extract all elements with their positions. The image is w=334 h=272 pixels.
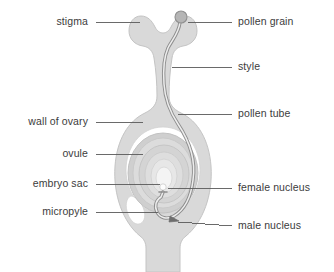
label-male-nucleus-text: male nucleus: [238, 219, 301, 231]
label-pollen-grain: pollen grain: [238, 15, 294, 27]
label-wall-of-ovary: wall of ovary: [28, 115, 88, 127]
label-ovule: ovule: [62, 147, 88, 159]
label-pollen-tube-text: pollen tube: [238, 107, 290, 119]
pollen-grain: [175, 11, 187, 23]
label-wall-of-ovary-text: wall of ovary: [28, 115, 88, 127]
label-embryo-sac-text: embryo sac: [33, 177, 88, 189]
label-male-nucleus: male nucleus: [238, 219, 301, 231]
label-micropyle: micropyle: [42, 205, 88, 217]
diagram-canvas: stigma wall of ovary ovule embryo sac mi…: [0, 0, 334, 272]
label-style: style: [238, 60, 260, 72]
label-stigma-text: stigma: [56, 15, 88, 27]
label-female-nucleus: female nucleus: [238, 181, 310, 193]
label-pollen-grain-text: pollen grain: [238, 15, 294, 27]
label-embryo-sac: embryo sac: [33, 177, 88, 189]
label-ovule-text: ovule: [62, 147, 88, 159]
label-stigma: stigma: [56, 15, 88, 27]
pistil-diagram: [0, 0, 334, 272]
label-female-nucleus-text: female nucleus: [238, 181, 310, 193]
label-pollen-tube: pollen tube: [238, 107, 290, 119]
label-style-text: style: [238, 60, 260, 72]
label-micropyle-text: micropyle: [42, 205, 88, 217]
female-nucleus: [160, 184, 166, 190]
